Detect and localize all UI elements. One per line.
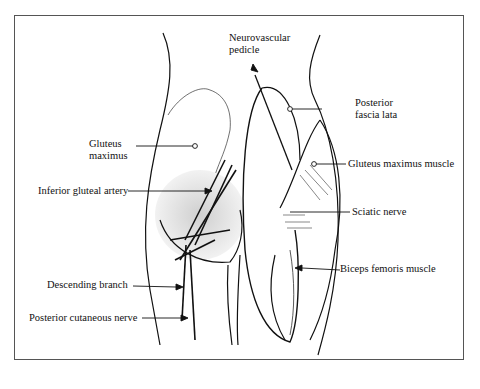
label-line: maximus bbox=[89, 150, 128, 162]
label-line: Posterior bbox=[355, 97, 397, 109]
right-hip-outline bbox=[310, 35, 339, 355]
pedicle-line bbox=[255, 75, 292, 170]
label-sciatic-nerve: Sciatic nerve bbox=[352, 206, 407, 218]
label-descending-branch: Descending branch bbox=[47, 279, 128, 291]
label-biceps-femoris-muscle: Biceps femoris muscle bbox=[340, 263, 436, 275]
label-posterior-cutaneous-nerve: Posterior cutaneous nerve bbox=[29, 312, 137, 324]
label-gluteus-maximus-muscle: Gluteus maximus muscle bbox=[348, 158, 454, 170]
label-line: pedicle bbox=[229, 44, 290, 56]
label-inferior-gluteal-artery: Inferior gluteal artery bbox=[38, 185, 128, 197]
label-neurovascular-pedicle: Neurovascular pedicle bbox=[229, 32, 290, 56]
label-line: fascia lata bbox=[355, 109, 397, 121]
label-posterior-fascia-lata: Posterior fascia lata bbox=[355, 97, 397, 121]
label-line: Neurovascular bbox=[229, 32, 290, 44]
label-gluteus-maximus: Gluteus maximus bbox=[89, 138, 128, 162]
label-line: Gluteus bbox=[89, 138, 128, 150]
